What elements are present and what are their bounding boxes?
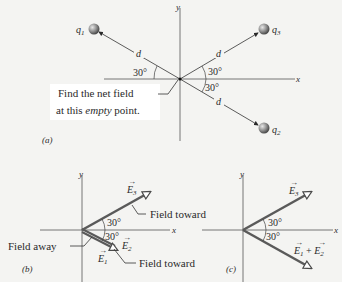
vector-arrow-icon: →: [123, 233, 131, 242]
label-field-away: Field away: [8, 240, 57, 252]
angle-arc-q1: [154, 66, 157, 79]
y-axis-label: y: [78, 169, 83, 179]
angle-label-upper: 30°: [107, 217, 121, 228]
note-line-2: at this empty point.: [56, 104, 140, 116]
charge-q3-label: q3: [272, 24, 281, 37]
angle-arc-upper: [263, 219, 266, 230]
x-axis-label: x: [295, 74, 300, 84]
charge-q1-icon: [89, 24, 100, 35]
note-line-1: Find the net field: [58, 87, 134, 99]
panel-a: y x d d d q1 q3 q2 30° 30° 30° Find the …: [42, 2, 300, 145]
note-leader-line: [158, 80, 178, 94]
x-axis-label: x: [171, 225, 176, 235]
leader-field-toward-top: [132, 205, 146, 214]
panel-c-caption: (c): [226, 264, 236, 274]
x-axis-label: x: [333, 225, 338, 235]
angle-label-lower: 30°: [105, 231, 119, 242]
label-field-toward-bottom: Field toward: [139, 257, 195, 269]
y-axis-label: y: [175, 2, 180, 12]
panel-b-caption: (b): [22, 264, 33, 274]
leader-field-away: [70, 237, 92, 246]
angle-arc-upper: [102, 219, 105, 230]
empty-point-marker: [178, 77, 181, 80]
angle-arc-q3: [202, 66, 206, 79]
charge-q1-label: q1: [76, 24, 85, 37]
y-axis-label: y: [239, 169, 244, 179]
vector-arrow-icon: →: [290, 178, 298, 187]
angle-label-lower: 30°: [266, 231, 280, 242]
charge-q2-label: q2: [272, 124, 281, 137]
angle-label-upper: 30°: [268, 217, 282, 228]
panel-a-caption: (a): [42, 135, 53, 145]
angle-label-q2: 30°: [205, 82, 219, 93]
vector-arrow-icon: →: [318, 238, 326, 247]
angle-label-q3: 30°: [208, 66, 222, 77]
vector-arrow-icon: →: [295, 238, 303, 247]
electric-field-diagram: y x d d d q1 q3 q2 30° 30° 30° Find the …: [0, 0, 342, 282]
vector-arrow-icon: →: [99, 246, 107, 255]
angle-label-q1: 30°: [133, 67, 147, 78]
charge-q3-icon: [259, 24, 270, 35]
panel-c: y x E3 → E1 + E2 → → 30° 30° (c): [202, 169, 338, 282]
vector-arrow-icon: →: [128, 177, 136, 186]
label-field-toward-top: Field toward: [150, 208, 206, 220]
leader-field-toward-bottom: [114, 249, 136, 263]
charge-q2-icon: [259, 123, 270, 134]
panel-b: y x E3 → E2 → E1 → 30° 30° Field toward …: [8, 169, 206, 282]
